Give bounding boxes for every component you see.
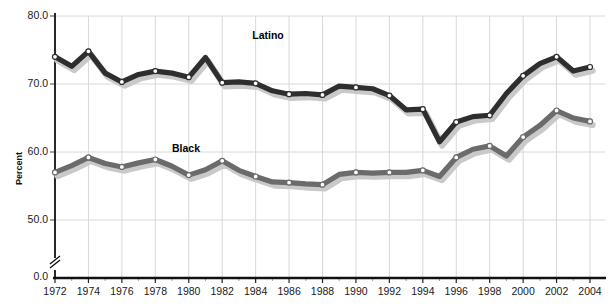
series-label-latino: Latino — [252, 29, 284, 41]
line-chart: Percent 50.060.070.080.00.0 197219741976… — [0, 0, 611, 306]
data-point-marker — [554, 108, 559, 113]
data-point-marker — [387, 93, 392, 98]
data-point-marker — [186, 75, 191, 80]
data-point-marker — [320, 182, 325, 187]
data-point-marker — [588, 119, 593, 124]
y-axis-tick-label: 60.0 — [0, 145, 48, 157]
data-point-marker — [86, 155, 91, 160]
data-point-marker — [487, 143, 492, 148]
y-axis-tick-label: 80.0 — [0, 9, 48, 21]
data-point-marker — [186, 173, 191, 178]
data-point-marker — [387, 170, 392, 175]
data-point-marker — [454, 155, 459, 160]
data-point-marker — [353, 85, 358, 90]
series-shadow — [58, 55, 593, 145]
data-point-marker — [487, 113, 492, 118]
data-point-marker — [153, 157, 158, 162]
data-point-marker — [287, 92, 292, 97]
data-point-marker — [53, 170, 58, 175]
data-point-marker — [353, 170, 358, 175]
data-point-marker — [86, 49, 91, 54]
series-label-black: Black — [172, 142, 200, 154]
data-point-marker — [53, 54, 58, 59]
data-point-marker — [320, 92, 325, 97]
y-axis-zero-label: 0.0 — [0, 270, 48, 282]
data-point-marker — [420, 107, 425, 112]
data-point-marker — [287, 180, 292, 185]
data-point-marker — [521, 135, 526, 140]
data-point-marker — [220, 80, 225, 85]
data-point-marker — [454, 120, 459, 125]
data-point-marker — [253, 174, 258, 179]
x-axis-tick-label: 2004 — [570, 285, 610, 297]
y-axis-tick-label: 50.0 — [0, 213, 48, 225]
data-point-marker — [420, 168, 425, 173]
data-point-marker — [220, 158, 225, 163]
y-axis-tick-label: 70.0 — [0, 77, 48, 89]
data-point-marker — [119, 79, 124, 84]
data-point-marker — [521, 73, 526, 78]
data-point-marker — [554, 54, 559, 59]
data-point-marker — [153, 69, 158, 74]
chart-plot-area — [0, 0, 611, 306]
data-point-marker — [119, 164, 124, 169]
data-point-marker — [588, 65, 593, 70]
data-point-marker — [253, 81, 258, 86]
